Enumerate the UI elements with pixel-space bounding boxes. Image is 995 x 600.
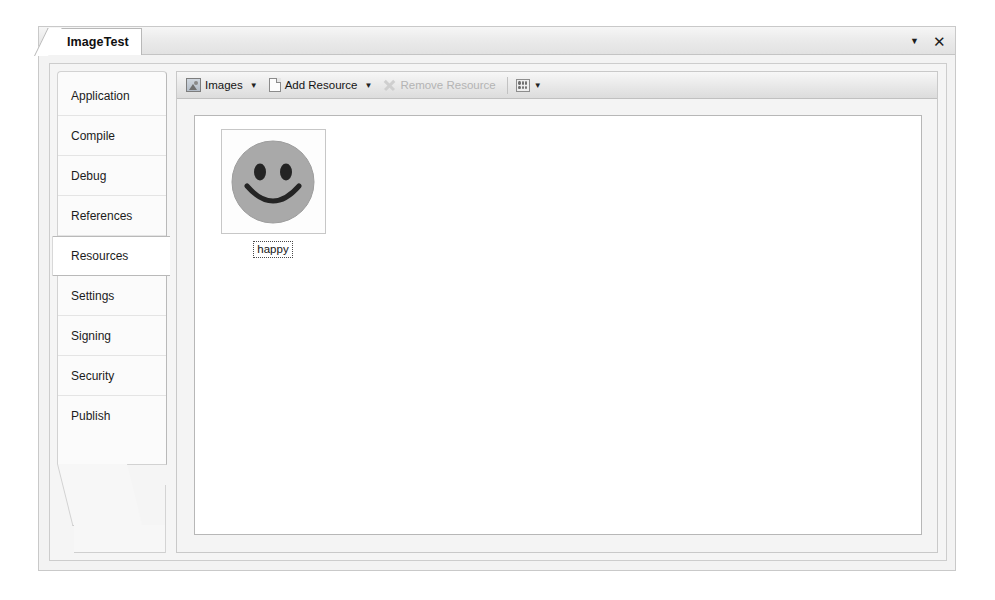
sidebar-item-label: Debug (71, 169, 106, 183)
page-icon (269, 78, 281, 92)
designer-window: ImageTest ▼ ✕ Application Compile Debug … (38, 26, 956, 571)
close-icon[interactable]: ✕ (932, 33, 947, 49)
chevron-down-icon[interactable]: ▼ (907, 33, 922, 49)
remove-resource-label: Remove Resource (400, 79, 495, 91)
add-resource-label: Add Resource (285, 79, 358, 91)
resource-thumbnail[interactable] (221, 129, 326, 234)
sidebar-item-signing[interactable]: Signing (58, 316, 166, 356)
chevron-down-icon[interactable]: ▼ (534, 82, 542, 90)
sidebar-item-compile[interactable]: Compile (58, 116, 166, 156)
sidebar-item-label: Resources (71, 249, 128, 263)
resource-item-label[interactable]: happy (253, 241, 292, 258)
sidebar-item-application[interactable]: Application (58, 76, 166, 116)
images-category-label: Images (205, 79, 243, 91)
tab-strip-controls: ▼ ✕ (907, 27, 947, 55)
grid-view-icon (516, 79, 530, 92)
sidebar-item-publish[interactable]: Publish (58, 396, 166, 436)
resource-toolbar: Images ▼ Add Resource ▼ Remove Resource (177, 72, 937, 99)
sidebar-item-references[interactable]: References (58, 196, 166, 236)
images-icon (186, 78, 201, 92)
smiley-face-icon (229, 138, 317, 226)
x-icon (383, 79, 396, 92)
sidebar-item-label: Settings (71, 289, 114, 303)
sidebar-item-label: Security (71, 369, 114, 383)
sidebar-item-label: Signing (71, 329, 111, 343)
sidebar-item-security[interactable]: Security (58, 356, 166, 396)
sidebar-item-label: References (71, 209, 132, 223)
toolbar-separator (507, 77, 508, 94)
view-mode-button[interactable]: ▼ (513, 75, 550, 96)
sidebar-item-label: Publish (71, 409, 110, 423)
property-pages-sidebar: Application Compile Debug References Res… (57, 71, 167, 465)
remove-resource-button: Remove Resource (380, 75, 501, 96)
resource-editor-panel: Images ▼ Add Resource ▼ Remove Resource (176, 71, 938, 553)
chevron-down-icon[interactable]: ▼ (365, 82, 373, 90)
property-pages-container: Application Compile Debug References Res… (49, 63, 947, 561)
images-category-button[interactable]: Images ▼ (183, 75, 266, 96)
document-tab-imagetest[interactable]: ImageTest (47, 28, 142, 55)
document-tab-strip: ImageTest ▼ ✕ (39, 27, 955, 55)
sidebar-tail-lower (74, 525, 166, 553)
sidebar-tail-upper (57, 464, 142, 526)
sidebar-item-label: Compile (71, 129, 115, 143)
resource-list[interactable]: happy (194, 115, 922, 535)
sidebar-item-label: Application (71, 89, 130, 103)
document-tab-label: ImageTest (67, 35, 129, 49)
resource-item-happy[interactable]: happy (217, 129, 329, 258)
sidebar-tail-edge (165, 485, 166, 553)
add-resource-button[interactable]: Add Resource ▼ (266, 75, 381, 96)
chevron-down-icon[interactable]: ▼ (250, 82, 258, 90)
sidebar-item-debug[interactable]: Debug (58, 156, 166, 196)
sidebar-item-settings[interactable]: Settings (58, 276, 166, 316)
sidebar-item-resources[interactable]: Resources (53, 236, 170, 276)
